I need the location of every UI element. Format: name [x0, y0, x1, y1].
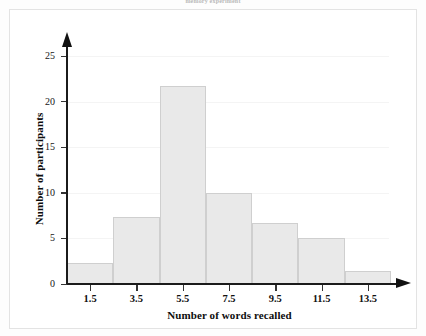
chart-panel: 05101520251.53.55.57.59.511.513.5Number …: [9, 9, 417, 329]
gridline: [68, 147, 389, 148]
figure-page: memory experiment 05101520251.53.55.57.5…: [0, 0, 426, 336]
x-axis-tick: [275, 285, 276, 291]
x-axis-tick-label: 13.5: [351, 293, 385, 304]
histogram-bar: [345, 271, 391, 284]
x-axis-tick-label: 1.5: [73, 293, 107, 304]
x-axis-tick: [322, 285, 323, 291]
x-axis-tick-label: 5.5: [166, 293, 200, 304]
histogram-bar: [252, 223, 298, 284]
x-axis-tick: [229, 285, 230, 291]
gridline: [68, 102, 389, 103]
y-axis-arrow-icon: [62, 32, 72, 47]
x-axis-tick: [368, 285, 369, 291]
histogram-bar: [206, 193, 252, 284]
x-axis-tick-label: 7.5: [212, 293, 246, 304]
y-axis-tick-label: 25: [29, 51, 55, 61]
histogram-bar: [298, 238, 344, 284]
x-axis-title: Number of words recalled: [67, 309, 392, 321]
y-axis-title: Number of participants: [33, 69, 45, 269]
x-axis-tick: [136, 285, 137, 291]
x-axis-tick-label: 11.5: [305, 293, 339, 304]
x-axis-arrow-icon: [396, 278, 411, 288]
histogram-bar: [113, 217, 159, 284]
x-axis-tick: [90, 285, 91, 291]
y-axis-line: [66, 46, 68, 284]
x-axis-line: [67, 283, 398, 285]
histogram-bar: [160, 86, 206, 284]
gridline: [68, 56, 389, 57]
figure-caption: memory experiment: [0, 0, 426, 6]
x-axis-tick-label: 9.5: [258, 293, 292, 304]
x-axis-tick: [183, 285, 184, 291]
x-axis-tick-label: 3.5: [119, 293, 153, 304]
y-axis-tick-label: 0: [29, 279, 55, 289]
histogram-bar: [67, 263, 113, 284]
